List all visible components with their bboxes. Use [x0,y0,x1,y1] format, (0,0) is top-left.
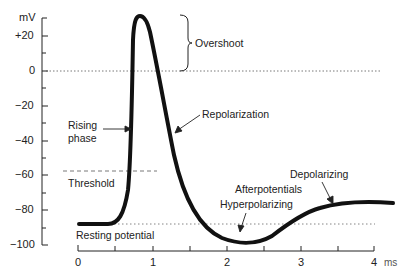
resting-potential-label: Resting potential [76,229,154,241]
y-tick-label: −80 [15,203,34,215]
afterpotentials-label: Afterpotentials [235,183,302,195]
x-unit-label: ms [384,257,397,268]
y-unit-label: mV [19,11,36,23]
repolarization-label: Repolarization [202,108,269,120]
y-tick-label: −60 [15,168,34,180]
action-potential-figure: mV +20 0 −20 −40 −60 −80 −100 0 1 2 3 4 … [0,0,407,278]
threshold-label: Threshold [68,177,115,189]
x-tick-label: 0 [75,256,81,268]
y-tick-label: +20 [15,29,34,41]
overshoot-brace [180,15,192,71]
y-tick-label: −20 [15,99,34,111]
overshoot-label: Overshoot [195,37,243,49]
hyperpolarizing-label: Hyperpolarizing [220,198,293,210]
x-tick-label: 3 [298,256,304,268]
depolarizing-label: Depolarizing [290,168,348,180]
x-tick-label: 1 [150,256,156,268]
phase-label: phase [68,132,97,144]
x-tick-label: 2 [224,256,230,268]
y-tick-label: −40 [15,134,34,146]
rising-label: Rising [68,119,97,131]
x-tick-label: 4 [371,256,377,268]
x-axis [78,245,374,251]
y-axis [42,18,48,245]
y-tick-label: 0 [29,64,35,76]
y-tick-label: −100 [10,238,35,250]
